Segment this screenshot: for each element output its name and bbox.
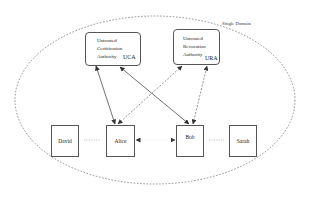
ura-line-1: Untrusted (183, 35, 206, 43)
uca-abbr: UCA (123, 54, 136, 60)
uca-line-3: Authority (97, 53, 122, 61)
user-label: Sarah (230, 138, 256, 144)
single-domain-boundary (15, 16, 295, 184)
uca-line-1: Untrusted (97, 37, 122, 45)
edge-alice-ura (118, 66, 182, 124)
user-node-sarah: Sarah (229, 125, 257, 157)
user-node-david: David (51, 125, 79, 157)
edge-bob-ura (193, 66, 207, 124)
uca-line-2: Certification (97, 45, 122, 53)
ura-line-3: Authority (183, 51, 206, 59)
ura-abbr: URA (205, 55, 218, 61)
user-label: Alice (107, 138, 134, 144)
uca-node: Untrusted Certification Authority UCA (85, 32, 141, 66)
user-node-alice: Alice (106, 125, 135, 157)
user-label: Bob (177, 134, 203, 140)
ura-description: Untrusted Revocation Authority (183, 35, 206, 59)
edge-bob-uca (120, 67, 189, 124)
user-label: David (52, 138, 78, 144)
diagram-canvas (0, 0, 313, 197)
uca-description: Untrusted Certification Authority (97, 37, 122, 61)
ura-node: Untrusted Revocation Authority URA (173, 29, 220, 65)
domain-label: Single Domain (222, 21, 251, 26)
user-node-bob: Bob (176, 125, 204, 157)
edge-alice-uca (96, 66, 115, 124)
ura-line-2: Revocation (183, 43, 206, 51)
